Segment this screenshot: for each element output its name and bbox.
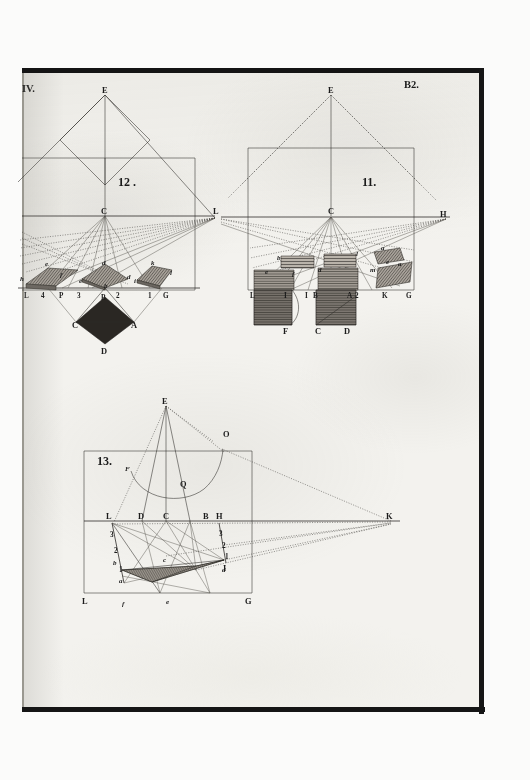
plate-border-bottom [22,707,485,712]
plate-sheet [22,68,483,712]
plate-page: E 12 . C L h e f e d b d i k l L 4 P 3 B… [0,0,530,780]
plate-border-top [22,68,483,73]
plate-border-right [479,68,484,714]
plate-border-left [22,70,24,712]
